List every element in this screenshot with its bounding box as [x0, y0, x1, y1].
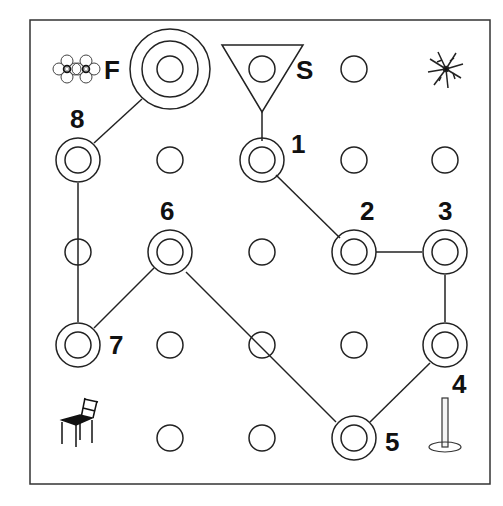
waypoint-1: [240, 138, 284, 182]
snowflake-icon: [428, 52, 463, 88]
waypoint-4: [423, 323, 467, 367]
waypoint-label-6: 6: [160, 196, 174, 226]
grid-point: [249, 239, 275, 265]
waypoint-3: [423, 230, 467, 274]
waypoint-label-3: 3: [438, 196, 452, 226]
start-label: S: [296, 55, 313, 85]
grid-point: [341, 147, 367, 173]
waypoint-label-7: 7: [109, 330, 123, 360]
grid-point: [432, 147, 458, 173]
grid-point: [249, 425, 275, 451]
grid-point: [157, 425, 183, 451]
finish-label: F: [104, 55, 120, 85]
waypoint-label-5: 5: [385, 427, 399, 457]
waypoint-5: [332, 416, 376, 460]
grid-point: [341, 56, 367, 82]
route-diagram: F S 1 2 3 4 5 6 7 8: [0, 0, 503, 506]
waypoint-2: [332, 230, 376, 274]
waypoint-7: [56, 323, 100, 367]
waypoint-label-4: 4: [452, 369, 467, 399]
flower-icon: [53, 55, 100, 83]
pin-stand-icon: [429, 398, 461, 452]
waypoint-label-2: 2: [360, 196, 374, 226]
finish-target-icon: [130, 29, 210, 109]
start-triangle-icon: [222, 45, 303, 112]
waypoint-label-8: 8: [70, 104, 84, 134]
grid-point: [157, 147, 183, 173]
grid-point: [249, 332, 275, 358]
waypoint-label-1: 1: [291, 129, 305, 159]
chair-icon: [62, 398, 98, 447]
grid-point: [157, 332, 183, 358]
grid-point: [341, 332, 367, 358]
waypoint-6: [148, 230, 192, 274]
waypoint-8: [56, 138, 100, 182]
